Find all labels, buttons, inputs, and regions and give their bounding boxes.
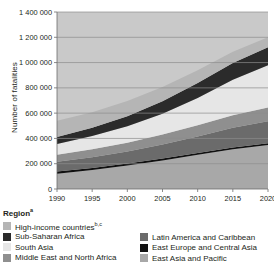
- legend-item[interactable]: South Asia: [3, 242, 143, 252]
- legend-swatch: [3, 243, 11, 251]
- legend-item-label: Sub-Saharan Africa: [15, 232, 84, 241]
- legend-item[interactable]: Latin America and Caribbean: [140, 232, 274, 242]
- x-axis-tick-label: 2020: [260, 194, 274, 203]
- legend-item[interactable]: East Europe and Central Asia: [140, 243, 274, 253]
- legend-item-superscript: b,c: [95, 221, 102, 227]
- legend-swatch: [3, 222, 11, 230]
- legend-swatch: [140, 233, 148, 241]
- y-axis-tick-label: 600 000: [25, 109, 52, 118]
- x-axis-tick-label: 2015: [225, 194, 241, 203]
- y-axis-tick-label: 200 000: [25, 159, 52, 168]
- legend-title-text: Region: [3, 209, 30, 218]
- chart-legend: Regiona High-income countriesb,cSub-Saha…: [0, 205, 274, 278]
- x-axis-tick-label: 1990: [49, 194, 65, 203]
- x-axis-tick-label: 1995: [84, 194, 100, 203]
- legend-item-label: East Asia and Pacific: [152, 254, 227, 263]
- y-axis-tick-label: 0: [48, 185, 52, 194]
- legend-item-label: Latin America and Caribbean: [152, 233, 255, 242]
- legend-column-right: Latin America and CaribbeanEast Europe a…: [140, 232, 274, 264]
- x-axis-tick-label: 2000: [119, 194, 135, 203]
- legend-swatch: [140, 244, 148, 252]
- legend-item-label: High-income countriesb,c: [15, 220, 102, 232]
- y-axis-tick-label: 1 400 000: [19, 8, 52, 17]
- y-axis-tick-label: 400 000: [25, 134, 52, 143]
- chart-svg: 0200 000400 000600 000800 0001 000 0001 …: [0, 0, 274, 205]
- chart-plot-area: Number of fatalities 0200 000400 000600 …: [0, 0, 274, 205]
- legend-item[interactable]: High-income countriesb,c: [3, 221, 143, 231]
- legend-swatch: [140, 254, 148, 262]
- legend-title: Regiona: [3, 207, 33, 218]
- legend-item-label: Middle East and North Africa: [15, 253, 116, 262]
- legend-item[interactable]: Sub-Saharan Africa: [3, 232, 143, 242]
- y-axis-tick-label: 800 000: [25, 83, 52, 92]
- legend-item[interactable]: Middle East and North Africa: [3, 253, 143, 263]
- legend-swatch: [3, 233, 11, 241]
- legend-item-label: East Europe and Central Asia: [152, 243, 257, 252]
- x-axis-tick-label: 2010: [189, 194, 205, 203]
- y-axis-tick-label: 1 200 000: [19, 33, 52, 42]
- legend-item[interactable]: East Asia and Pacific: [140, 253, 274, 263]
- y-axis-tick-label: 1 000 000: [19, 58, 52, 67]
- legend-title-superscript: a: [30, 207, 33, 213]
- legend-item-label: South Asia: [15, 243, 53, 252]
- legend-swatch: [3, 254, 11, 262]
- x-axis-tick-label: 2005: [154, 194, 170, 203]
- legend-column-left: High-income countriesb,cSub-Saharan Afri…: [3, 221, 143, 263]
- stacked-area-chart-figure: Number of fatalities 0200 000400 000600 …: [0, 0, 274, 278]
